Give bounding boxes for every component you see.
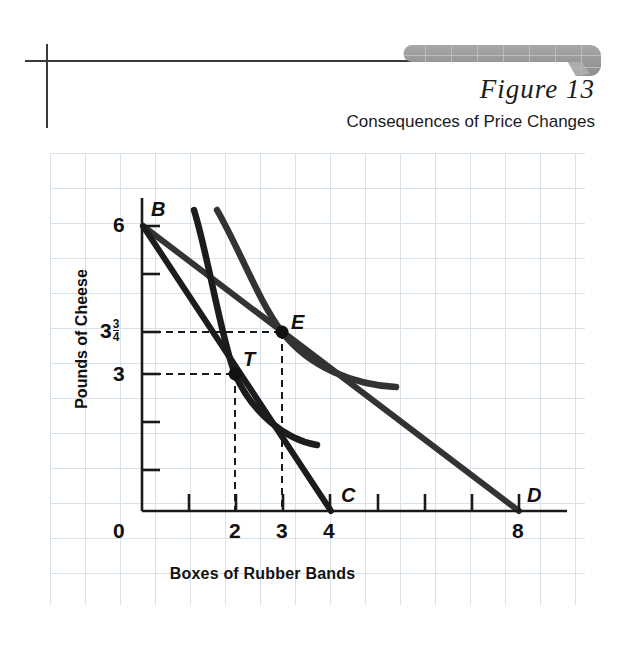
origin-label: 0 — [113, 519, 125, 543]
point-label-c: C — [341, 484, 355, 507]
y-axis-title: Pounds of Cheese — [73, 239, 91, 439]
x-tick-label-8: 8 — [512, 519, 524, 543]
point-marker-t — [229, 368, 242, 381]
point-label-d: D — [527, 484, 541, 507]
point-marker-e — [276, 326, 289, 339]
y-axis-ticks — [142, 226, 160, 470]
y-tick-whole-part: 3 — [100, 320, 112, 341]
guide-lines — [142, 332, 282, 511]
x-tick-label-4: 4 — [323, 519, 335, 543]
chart-plot-area — [0, 0, 633, 645]
x-tick-label-2: 2 — [229, 519, 241, 543]
y-tick-label-three-and-three-quarters: 3 3 4 — [100, 318, 119, 343]
point-label-t: T — [243, 348, 255, 371]
y-tick-label-3: 3 — [113, 362, 125, 386]
x-axis-title: Boxes of Rubber Bands — [0, 565, 525, 583]
fraction-denominator: 4 — [113, 330, 120, 343]
x-tick-label-3: 3 — [276, 519, 288, 543]
fraction-numerator: 3 — [113, 318, 120, 330]
point-label-e: E — [291, 311, 304, 334]
point-label-b: B — [151, 198, 165, 221]
y-tick-label-6: 6 — [113, 213, 125, 237]
figure-container: Figure 13 Consequences of Price Changes — [0, 0, 633, 645]
y-tick-fraction: 3 4 — [113, 318, 120, 343]
